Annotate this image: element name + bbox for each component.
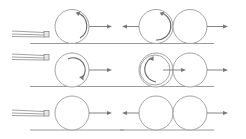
object-ball-left	[139, 96, 173, 130]
object-ball-right	[173, 96, 207, 130]
cue-ball	[55, 10, 89, 44]
object-ball-left	[139, 10, 173, 44]
cue-stick	[12, 54, 49, 60]
cue-stick	[12, 110, 49, 116]
object-ball-right	[173, 10, 207, 44]
cue-stick	[12, 31, 49, 37]
row-topspin	[12, 10, 228, 44]
row-backspin	[12, 53, 228, 87]
billiard-spin-diagram	[0, 0, 246, 139]
row-no-spin	[12, 96, 228, 130]
cue-ball	[55, 96, 89, 130]
